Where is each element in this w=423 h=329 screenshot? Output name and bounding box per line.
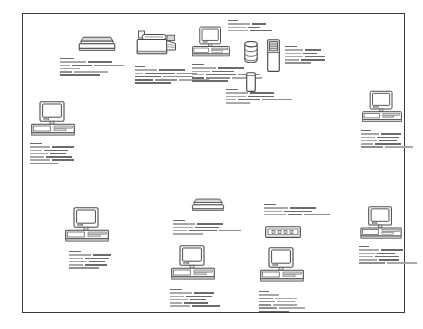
node-workstation-bottom-center[interactable] <box>171 245 215 281</box>
caption-text-line <box>305 56 325 57</box>
caption-text-line <box>359 256 373 257</box>
desktop-computer-icon[interactable] <box>360 206 402 240</box>
node-network-node-top[interactable] <box>246 72 256 92</box>
caption-text-line <box>192 67 216 68</box>
caption-text-line <box>379 259 399 260</box>
diagram-canvas <box>0 0 423 329</box>
caption-text-line <box>155 79 177 80</box>
desktop-computer-icon[interactable] <box>65 207 109 243</box>
node-caption-text <box>60 58 140 78</box>
caption-text-line <box>44 150 68 151</box>
caption-text-line <box>195 227 219 228</box>
node-scanner-bottom[interactable] <box>189 198 227 212</box>
caption-text-line <box>259 291 269 292</box>
caption-text-line <box>184 302 208 303</box>
caption-text-line <box>69 254 91 255</box>
caption-text-line <box>135 73 143 74</box>
caption-text-line <box>52 159 74 160</box>
node-caption-text <box>259 291 323 314</box>
server-tower-icon[interactable] <box>267 39 280 72</box>
caption-text-line <box>173 220 185 221</box>
caption-text-line <box>145 73 175 74</box>
caption-text-line <box>46 156 72 157</box>
caption-text-line <box>301 59 325 60</box>
caption-text-line <box>284 211 312 212</box>
desktop-computer-icon[interactable] <box>362 90 402 124</box>
caption-text-line <box>250 92 274 93</box>
caption-text-line <box>85 264 107 265</box>
caption-text-line <box>218 67 244 68</box>
node-caption-text <box>30 143 96 166</box>
caption-text-line <box>259 304 271 305</box>
flatbed-scanner-icon[interactable] <box>78 36 116 52</box>
caption-text-line <box>69 267 99 268</box>
caption-text-line <box>250 30 272 31</box>
caption-text-line <box>173 233 203 234</box>
caption-text-line <box>30 156 44 157</box>
desktop-computer-icon[interactable] <box>31 101 75 137</box>
caption-text-line <box>173 230 187 231</box>
caption-text-line <box>30 163 58 164</box>
node-workstation-right-top[interactable] <box>362 90 402 124</box>
caption-text-line <box>173 227 193 228</box>
network-hub-icon[interactable] <box>265 226 301 238</box>
caption-text-line <box>30 146 50 147</box>
caption-text-line <box>135 66 145 67</box>
tower-unit-icon[interactable] <box>246 72 256 92</box>
caption-text-line <box>163 76 193 77</box>
flatbed-scanner-icon[interactable] <box>189 198 227 212</box>
caption-text-line <box>60 71 72 72</box>
node-caption-text <box>226 89 294 105</box>
caption-text-line <box>135 79 153 80</box>
caption-text-line <box>259 298 273 299</box>
caption-text-line <box>361 130 371 131</box>
caption-text-line <box>359 262 385 263</box>
caption-text-line <box>303 53 317 54</box>
caption-text-line <box>259 301 275 302</box>
node-network-hub[interactable] <box>265 226 301 238</box>
node-workstation-bottom-left[interactable] <box>65 207 109 243</box>
caption-text-line <box>264 211 282 212</box>
caption-text-line <box>194 292 214 293</box>
node-printer-top[interactable] <box>136 30 178 60</box>
desktop-computer-icon[interactable] <box>192 26 230 58</box>
printer-icon[interactable] <box>136 30 178 60</box>
caption-text-line <box>30 143 42 144</box>
node-scanner-top[interactable] <box>78 36 116 52</box>
node-database-server[interactable] <box>244 41 258 63</box>
caption-text-line <box>72 65 92 66</box>
caption-text-line <box>226 89 238 90</box>
node-caption-text <box>170 289 234 309</box>
desktop-computer-icon[interactable] <box>171 245 215 281</box>
caption-text-line <box>69 261 87 262</box>
caption-text-line <box>197 223 223 224</box>
caption-text-line <box>192 305 220 306</box>
caption-text-line <box>285 62 311 63</box>
caption-text-line <box>60 68 80 69</box>
node-workstation-left[interactable] <box>31 101 75 137</box>
caption-text-line <box>170 292 192 293</box>
caption-text-line <box>264 204 276 205</box>
node-server-tower[interactable] <box>267 39 280 72</box>
caption-text-line <box>192 77 204 78</box>
caption-text-line <box>206 77 230 78</box>
node-caption-text <box>192 64 270 84</box>
caption-text-line <box>219 230 241 231</box>
caption-text-line <box>60 61 86 62</box>
database-cylinder-icon[interactable] <box>244 41 258 63</box>
caption-text-line <box>135 82 171 83</box>
caption-text-line <box>30 159 50 160</box>
caption-text-line <box>290 207 316 208</box>
node-workstation-bottom-right-center[interactable] <box>260 247 304 283</box>
caption-text-line <box>359 249 379 250</box>
caption-text-line <box>359 253 375 254</box>
caption-text-line <box>277 301 295 302</box>
caption-text-line <box>69 264 83 265</box>
caption-text-line <box>273 304 297 305</box>
caption-text-line <box>377 253 395 254</box>
desktop-computer-icon[interactable] <box>260 247 304 283</box>
node-workstation-top-center[interactable] <box>192 26 230 58</box>
caption-text-line <box>262 99 292 100</box>
node-workstation-right-bottom[interactable] <box>360 206 402 240</box>
caption-text-line <box>361 146 383 147</box>
